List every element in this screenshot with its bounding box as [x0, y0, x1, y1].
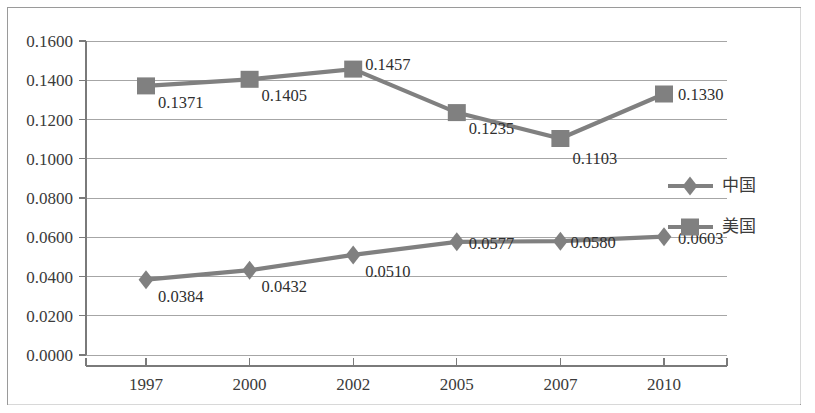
y-axis-tick-label: 0.1600 — [26, 32, 73, 51]
y-axis-tick-label: 0.0000 — [26, 346, 73, 365]
legend-marker — [683, 177, 698, 196]
data-point-label: 0.1457 — [365, 55, 410, 74]
data-point-marker — [657, 227, 672, 246]
legend-entry-label: 美国 — [722, 217, 756, 236]
x-axis-tick-label: 1997 — [129, 375, 164, 394]
data-point-label: 0.0510 — [365, 262, 410, 281]
data-point-label: 0.1330 — [678, 85, 723, 104]
data-point-marker — [553, 232, 568, 251]
data-point-label: 0.0432 — [262, 277, 307, 296]
series-line — [146, 69, 664, 138]
chart-container: 0.00000.02000.04000.06000.08000.10000.12… — [0, 0, 815, 413]
y-gridlines — [86, 41, 727, 355]
data-point-marker — [241, 71, 259, 88]
data-point-label: 0.1103 — [572, 149, 617, 168]
data-point-marker — [551, 130, 569, 147]
data-point-label: 0.1405 — [262, 86, 307, 105]
data-point-marker — [344, 61, 362, 78]
y-axis-tick-label: 0.0400 — [26, 268, 73, 287]
data-point-marker — [137, 77, 155, 94]
data-point-label: 0.0577 — [469, 234, 514, 253]
data-point-label: 0.1235 — [469, 119, 514, 138]
data-point-marker — [346, 245, 361, 264]
x-axis-tick-label: 2005 — [440, 375, 474, 394]
x-axis-tick-label: 2002 — [336, 375, 370, 394]
chart-legend: 中国美国 — [668, 176, 756, 236]
legend-entry-label: 中国 — [722, 176, 756, 195]
data-point-marker — [139, 270, 154, 289]
data-point-label: 0.0384 — [158, 287, 203, 306]
data-point-label: 0.1371 — [158, 93, 203, 112]
y-axis-tick-label: 0.0800 — [26, 189, 73, 208]
y-axis-tick-label: 0.1400 — [26, 71, 73, 90]
x-axis-tick-labels: 199720002002200520072010 — [129, 375, 681, 394]
y-tickmarks — [79, 41, 86, 355]
y-axis-tick-label: 0.1000 — [26, 150, 73, 169]
data-point-marker — [448, 104, 466, 121]
x-axis-tick-label: 2007 — [543, 375, 578, 394]
x-axis-tickmarks — [86, 358, 727, 366]
y-axis-tick-label: 0.1200 — [26, 111, 73, 130]
data-point-marker — [449, 232, 464, 251]
data-point-label: 0.0580 — [570, 233, 615, 252]
chart-plot-svg: 0.00000.02000.04000.06000.08000.10000.12… — [0, 0, 815, 413]
y-axis-tick-label: 0.0200 — [26, 307, 73, 326]
y-axis-tick-labels: 0.00000.02000.04000.06000.08000.10000.12… — [26, 32, 73, 365]
x-axis-tick-label: 2010 — [647, 375, 681, 394]
x-axis-tick-label: 2000 — [233, 375, 267, 394]
data-labels-china: 0.03840.04320.05100.05770.05800.0603 — [158, 229, 723, 306]
legend-marker — [681, 219, 699, 236]
y-axis-tick-label: 0.0600 — [26, 228, 73, 247]
data-point-marker — [655, 86, 673, 103]
